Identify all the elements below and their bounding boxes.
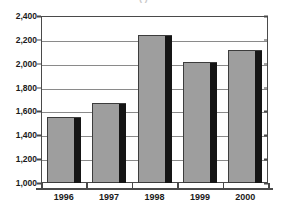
x-axis-labels: 19961997199819992000 xyxy=(41,192,268,208)
x-axis-tick xyxy=(177,183,179,189)
y-axis-tick-right xyxy=(264,135,268,137)
bar-slot xyxy=(228,16,262,183)
y-axis-tick-label: 1,200 xyxy=(0,155,37,164)
y-axis-tick xyxy=(37,183,41,185)
y-axis-tick-right xyxy=(264,111,268,113)
bars-group xyxy=(41,16,268,183)
chart-title-clipped: ( ) xyxy=(0,0,287,5)
y-axis-tick-label: 2,200 xyxy=(0,35,37,44)
bar-shadow xyxy=(165,35,172,184)
y-axis-tick xyxy=(37,87,41,89)
y-axis-tick-right xyxy=(264,183,268,185)
y-axis-tick xyxy=(37,39,41,41)
x-axis-tick xyxy=(41,183,43,189)
x-axis-tick-label: 1997 xyxy=(99,192,119,202)
y-axis-tick-label: 1,000 xyxy=(0,179,37,188)
x-axis-tick-label: 2000 xyxy=(235,192,255,202)
y-axis: 1,0001,2001,4001,6001,8002,0002,2002,400 xyxy=(0,16,37,183)
y-axis-tick-right xyxy=(264,39,268,41)
bar-shadow xyxy=(255,50,262,183)
y-axis-tick-label: 2,400 xyxy=(0,12,37,21)
y-axis-tick-label: 2,000 xyxy=(0,59,37,68)
y-axis-tick xyxy=(37,16,41,18)
x-axis-tick xyxy=(86,183,88,189)
y-axis-tick-right xyxy=(264,87,268,89)
x-axis-tick xyxy=(268,183,270,189)
x-axis-tick xyxy=(223,183,225,189)
y-axis-tick xyxy=(37,111,41,113)
bar-slot xyxy=(47,16,81,183)
y-axis-tick-label: 1,600 xyxy=(0,107,37,116)
y-axis-tick-right xyxy=(264,16,268,18)
bar-chart: ( ) 1,0001,2001,4001,6001,8002,0002,2002… xyxy=(0,0,287,221)
bar-slot xyxy=(92,16,126,183)
y-axis-tick-right xyxy=(264,63,268,65)
x-axis-tick-label: 1999 xyxy=(190,192,210,202)
bar-slot xyxy=(138,16,172,183)
y-axis-tick xyxy=(37,63,41,65)
x-axis-tick-label: 1996 xyxy=(54,192,74,202)
x-axis-tick xyxy=(132,183,134,189)
y-axis-tick-right xyxy=(264,159,268,161)
x-axis-tick-label: 1998 xyxy=(144,192,164,202)
bar-slot xyxy=(183,16,217,183)
bar-shadow xyxy=(210,62,217,183)
x-axis-line xyxy=(36,188,273,190)
bar-shadow xyxy=(119,103,126,183)
y-axis-tick-label: 1,400 xyxy=(0,131,37,140)
bar-shadow xyxy=(74,117,81,183)
y-axis-tick xyxy=(37,159,41,161)
y-axis-tick xyxy=(37,135,41,137)
y-axis-tick-label: 1,800 xyxy=(0,83,37,92)
